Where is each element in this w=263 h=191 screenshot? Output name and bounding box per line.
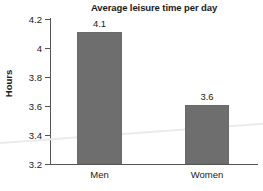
y-tick-mark [45, 48, 50, 49]
y-axis-title: Hours [3, 62, 14, 106]
y-tick-mark [45, 164, 50, 165]
y-tick-label: 4.2 [0, 14, 42, 25]
y-tick-label: 3.6 [0, 101, 42, 112]
bar-value-men: 4.1 [77, 18, 122, 29]
x-tick-label-men: Men [69, 169, 130, 180]
bar-women[interactable] [185, 105, 229, 164]
y-tick-mark [45, 106, 50, 107]
x-tick-label-women: Women [176, 169, 238, 180]
y-tick-label: 3.2 [0, 159, 42, 170]
y-tick-label: 3.4 [0, 130, 42, 141]
y-tick-mark [45, 77, 50, 78]
bar-value-women: 3.6 [185, 91, 229, 102]
y-tick-label: 4 [0, 43, 42, 54]
bar-men[interactable] [77, 32, 122, 164]
y-tick-mark [45, 135, 50, 136]
chart-title: Average leisure time per day [50, 2, 258, 13]
x-axis-line [50, 164, 258, 165]
y-tick-mark [45, 19, 50, 20]
y-tick-label: 3.8 [0, 72, 42, 83]
bar-chart: Average leisure time per day Hours 4.2 4… [0, 0, 263, 191]
y-axis-line [50, 18, 51, 165]
